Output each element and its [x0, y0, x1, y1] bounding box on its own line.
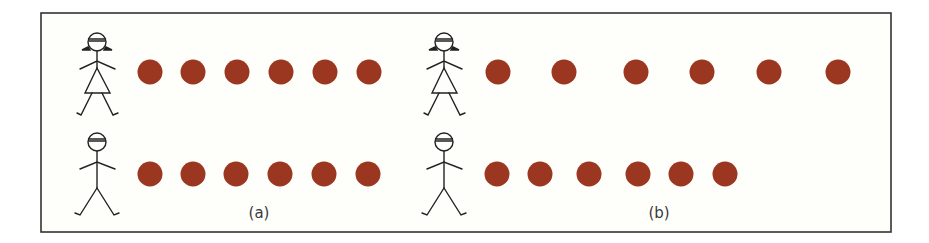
- counter-dot: [181, 162, 206, 187]
- counter-dot: [268, 162, 293, 187]
- counter-dot: [486, 60, 511, 85]
- counter-dot: [225, 60, 250, 85]
- conservation-of-number-diagram: (a)(b): [0, 0, 929, 243]
- counter-dot: [690, 60, 715, 85]
- counter-dot: [669, 162, 694, 187]
- counter-dot: [528, 162, 553, 187]
- counter-dot: [224, 162, 249, 187]
- counter-dot: [552, 60, 577, 85]
- counter-dot: [181, 60, 206, 85]
- panel-label: (b): [648, 204, 669, 222]
- counter-dot: [357, 60, 382, 85]
- counter-dot: [577, 162, 602, 187]
- counter-dot: [485, 162, 510, 187]
- panel-label: (a): [249, 204, 270, 222]
- counter-dot: [313, 60, 338, 85]
- diagram-frame: [41, 13, 891, 232]
- counter-dot: [356, 162, 381, 187]
- counter-dot: [312, 162, 337, 187]
- counter-dot: [826, 60, 851, 85]
- counter-dot: [757, 60, 782, 85]
- counter-dot: [138, 60, 163, 85]
- counter-dot: [626, 162, 651, 187]
- counter-dot: [713, 162, 738, 187]
- counter-dot: [138, 162, 163, 187]
- counter-dot: [269, 60, 294, 85]
- counter-dot: [624, 60, 649, 85]
